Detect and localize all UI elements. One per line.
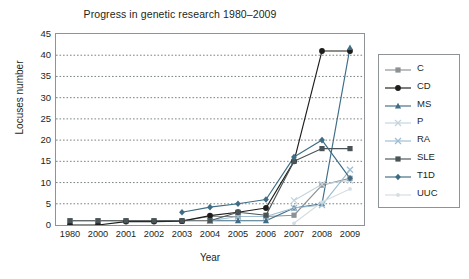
legend-label: MS (417, 98, 431, 110)
legend-item-cd[interactable]: CD (384, 80, 456, 92)
data-point-marker (395, 67, 400, 72)
y-tick-label: 10 (40, 177, 51, 188)
y-axis-tick-labels: 454035302520151050 (18, 27, 51, 232)
data-point-marker (179, 218, 184, 223)
legend-item-t1d[interactable]: T1D (384, 169, 456, 181)
data-point-marker (395, 173, 401, 180)
data-point-marker (67, 218, 72, 223)
plot-svg (56, 34, 364, 225)
data-point-marker (320, 200, 324, 204)
x-axis-title: Year (55, 252, 365, 263)
y-tick-label: 25 (40, 113, 51, 124)
data-point-marker (263, 205, 269, 211)
chart-figure: Progress in genetic research 1980–2009 L… (0, 0, 469, 279)
data-point-marker (207, 204, 213, 211)
legend-marker-diamond-icon (384, 169, 412, 181)
legend-item-uuc[interactable]: UUC (384, 187, 456, 199)
chart-title: Progress in genetic research 1980–2009 (0, 8, 360, 20)
legend-label: C (417, 62, 424, 74)
legend-marker-square-icon (384, 62, 412, 74)
series-line-ms (210, 48, 350, 221)
y-tick-label: 5 (46, 198, 51, 209)
data-point-marker (263, 213, 268, 218)
data-point-marker (207, 218, 212, 223)
legend-label: T1D (417, 169, 435, 181)
data-point-marker (95, 218, 100, 223)
legend-marker-triangle-icon (384, 98, 412, 110)
y-tick-label: 20 (40, 134, 51, 145)
y-tick-label: 15 (40, 155, 51, 166)
series-markers-ms (207, 44, 353, 223)
y-tick-label: 30 (40, 92, 51, 103)
data-point-marker (395, 85, 401, 91)
data-point-marker (395, 156, 400, 161)
data-point-marker (235, 210, 240, 215)
plot-area (55, 33, 365, 226)
data-point-marker (347, 167, 353, 173)
data-point-marker (291, 197, 297, 203)
data-point-marker (151, 218, 156, 223)
data-point-marker (347, 146, 352, 151)
legend-label: SLE (417, 151, 435, 163)
legend-marker-dot-icon (384, 187, 412, 199)
x-axis-tick-labels: 1980200020012002200320042005200620072008… (55, 229, 365, 245)
y-tick-label: 35 (40, 70, 51, 81)
legend-label: UUC (417, 187, 438, 199)
data-point-marker (347, 44, 353, 50)
data-point-marker (291, 213, 296, 218)
legend-item-p[interactable]: P (384, 115, 456, 127)
legend-item-ra[interactable]: RA (384, 133, 456, 145)
y-tick-label: 45 (40, 28, 51, 39)
data-point-marker (179, 209, 185, 216)
y-tick-label: 40 (40, 49, 51, 60)
legend-label: CD (417, 80, 431, 92)
data-point-marker (123, 218, 128, 223)
legend-marker-square-icon (384, 151, 412, 163)
data-point-marker (235, 200, 241, 207)
data-point-marker (396, 193, 400, 197)
legend-marker-x-icon (384, 115, 412, 127)
legend-item-c[interactable]: C (384, 62, 456, 74)
chart-legend: CCDMSPRASLET1DUUC (378, 54, 460, 208)
legend-item-ms[interactable]: MS (384, 98, 456, 110)
legend-label: RA (417, 133, 430, 145)
series-line-cd (70, 51, 350, 225)
legend-item-sle[interactable]: SLE (384, 151, 456, 163)
y-tick-label: 0 (46, 219, 51, 230)
legend-marker-circle-icon (384, 80, 412, 92)
legend-marker-x-icon (384, 133, 412, 145)
x-tick-label: 2009 (333, 229, 367, 239)
data-point-marker (319, 146, 324, 151)
data-point-marker (319, 48, 325, 54)
data-point-marker (348, 187, 352, 191)
legend-label: P (417, 115, 423, 127)
